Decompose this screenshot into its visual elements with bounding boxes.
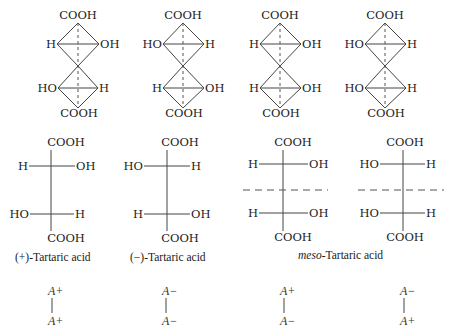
top-cooh: COOH [164,8,202,22]
label-meso-tartaric: meso-Tartaric acid [298,249,383,261]
lower-left-group: HO [345,81,364,95]
upper-left-group: H [46,37,56,51]
bottom-cooh: COOH [161,231,199,245]
lower-right-group: OH [191,207,210,221]
top-cooh: COOH [59,8,97,22]
lower-left-group: H [249,81,259,95]
lower-right-group: H [99,81,109,95]
upper-right-group: H [205,37,215,51]
tetrahedral-meso-a: COOH H OH H OH COOH [249,8,322,120]
label-plus-tartaric: (+)-Tartaric acid [15,251,91,264]
lower-left-group: HO [10,207,29,221]
fischer-plus: COOH H OH HO H COOH [10,135,96,245]
upper-left-group: H [248,157,258,171]
config-minus: A− A− [161,284,177,328]
upper-left-group: H [249,37,259,51]
lower-left-group: H [152,81,162,95]
fischer-minus: COOH HO H H OH COOH [124,135,211,245]
bottom-cooh: COOH [262,106,300,120]
lower-right-group: OH [309,206,328,220]
config-top: A+ [47,284,63,298]
tartaric-acid-diagram: COOH H OH HO H COOH COOH HO H H OH COOH … [0,0,452,334]
top-cooh: COOH [161,135,199,149]
fischer-meso-b: COOH HO H HO H COOH [358,135,444,244]
bottom-cooh: COOH [367,106,405,120]
lower-left-group: H [133,207,143,221]
lower-right-group: H [407,81,417,95]
config-meso-a: A+ A− [279,284,295,328]
upper-right-group: OH [100,37,119,51]
upper-right-group: H [191,159,201,173]
upper-left-group: HO [124,159,143,173]
lower-right-group: OH [302,81,321,95]
lower-right-group: H [75,207,85,221]
bottom-cooh: COOH [60,106,98,120]
tetrahedral-meso-b: COOH HO H HO H COOH [345,8,418,120]
top-cooh: COOH [366,8,404,22]
tetrahedral-minus: COOH HO H H OH COOH [143,8,225,120]
tetrahedral-plus: COOH H OH HO H COOH [38,8,120,120]
meso-prefix: meso [298,249,322,261]
lower-left-group: H [248,206,258,220]
upper-right-group: H [407,37,417,51]
upper-right-group: H [426,157,436,171]
lower-right-group: H [426,206,436,220]
config-bottom: A− [279,314,295,328]
meso-suffix: -Tartaric acid [322,249,384,261]
upper-left-group: HO [345,37,364,51]
bottom-cooh: COOH [165,106,203,120]
config-top: A+ [279,284,295,298]
upper-right-group: OH [76,159,95,173]
upper-right-group: OH [302,37,321,51]
label-minus-tartaric: (−)-Tartaric acid [130,251,206,264]
lower-left-group: HO [360,206,379,220]
top-cooh: COOH [261,8,299,22]
config-top: A− [161,284,177,298]
top-cooh: COOH [274,135,312,149]
config-bottom: A+ [47,314,63,328]
config-bottom: A+ [399,314,415,328]
upper-right-group: OH [309,157,328,171]
config-plus: A+ A+ [47,284,63,328]
upper-left-group: HO [360,157,379,171]
top-cooh: COOH [386,135,424,149]
lower-right-group: OH [205,81,224,95]
lower-left-group: HO [38,81,57,95]
upper-left-group: H [18,159,28,173]
bottom-cooh: COOH [386,230,424,244]
top-cooh: COOH [47,135,85,149]
config-bottom: A− [161,314,177,328]
config-meso-b: A− A+ [399,284,415,328]
bottom-cooh: COOH [47,231,85,245]
upper-left-group: HO [143,37,162,51]
config-top: A− [399,284,415,298]
bottom-cooh: COOH [274,230,312,244]
fischer-meso-a: COOH H OH H OH COOH [243,135,328,244]
